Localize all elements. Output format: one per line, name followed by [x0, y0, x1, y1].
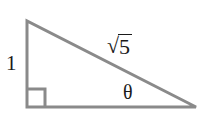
radicand-value: 5: [118, 34, 132, 58]
triangle-drawing: [0, 0, 211, 131]
angle-theta-label: θ: [123, 82, 133, 102]
vertical-leg-label: 1: [6, 53, 17, 74]
hypotenuse-label: √5: [107, 34, 132, 58]
radical-sign-icon: √: [107, 35, 119, 57]
radical-expression: √5: [107, 34, 132, 58]
triangle-figure: 1 √5 θ: [0, 0, 211, 131]
figure-background: [0, 0, 211, 131]
